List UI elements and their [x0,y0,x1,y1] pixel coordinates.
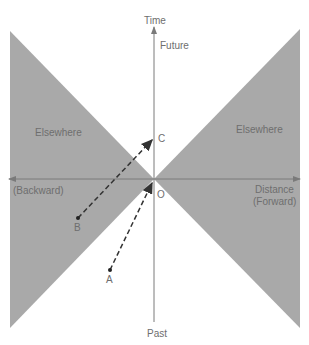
elsewhere-label-right: Elsewhere [236,124,283,135]
past-label: Past [147,328,167,339]
forward-label: (Forward) [253,196,296,207]
future-label: Future [160,40,189,51]
event-point-b [76,216,80,220]
event-label-a: A [106,274,113,285]
time-axis-label: Time [144,15,166,26]
distance-label: Distance [255,184,294,195]
event-point-a [108,268,112,272]
elsewhere-label-left: Elsewhere [35,127,82,138]
event-label-b: B [74,222,81,233]
origin-label: O [157,189,165,200]
spacetime-diagram: Time Future Past Elsewhere Elsewhere C O… [0,0,309,345]
event-label-c: C [158,133,165,144]
backward-label: (Backward) [13,185,64,196]
